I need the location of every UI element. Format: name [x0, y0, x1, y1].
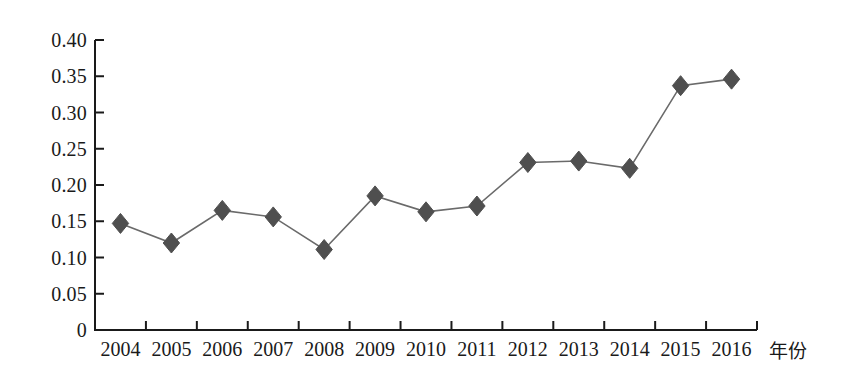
data-point-marker [520, 153, 536, 173]
data-point-marker [163, 233, 179, 253]
x-axis-tick-label: 2012 [508, 338, 548, 361]
x-axis-tick-label: 2008 [304, 338, 344, 361]
data-point-marker [112, 213, 128, 233]
data-point-marker [214, 200, 230, 220]
chart-figure: 00.050.100.150.200.250.300.350.40 年份 200… [0, 0, 844, 378]
data-point-marker [469, 196, 485, 216]
x-axis-tick-label: 2010 [406, 338, 446, 361]
x-axis-tick-label: 2014 [610, 338, 650, 361]
x-axis-tick-label: 2011 [457, 338, 496, 361]
data-point-marker [265, 207, 281, 227]
data-point-marker [571, 151, 587, 171]
line-chart-canvas [0, 0, 844, 378]
data-point-marker [672, 76, 688, 96]
x-axis-tick-label: 2007 [253, 338, 293, 361]
x-axis-tick-label: 2015 [661, 338, 701, 361]
x-axis-tick-label: 2006 [202, 338, 242, 361]
data-point-marker [621, 158, 637, 178]
x-axis-tick-label: 2013 [559, 338, 599, 361]
x-axis-tick-label: 2009 [355, 338, 395, 361]
data-line [120, 79, 731, 249]
data-point-marker [723, 69, 739, 89]
x-axis-tick-label: 2005 [151, 338, 191, 361]
x-axis-title: 年份 [769, 336, 807, 363]
x-axis-tick-label: 2004 [100, 338, 140, 361]
axis-tick-marks [95, 40, 757, 330]
chart-axes [95, 40, 757, 330]
data-markers [112, 69, 739, 259]
data-point-marker [418, 202, 434, 222]
x-axis-tick-label: 2016 [712, 338, 752, 361]
